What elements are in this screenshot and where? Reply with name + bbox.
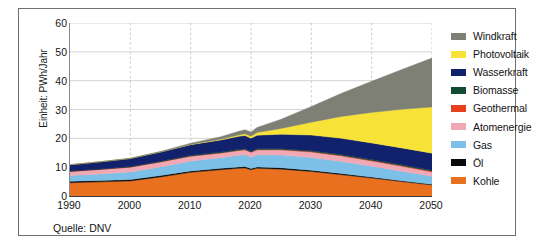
- legend-swatch-icon: [451, 105, 466, 112]
- legend-swatch-icon: [451, 141, 466, 148]
- legend-label: Öl: [473, 157, 483, 169]
- x-tick-label: 2010: [167, 199, 213, 211]
- chart-figure: Einheit: PWh/Jahr 0102030405060 19902000…: [0, 0, 540, 247]
- legend-item[interactable]: Windkraft: [451, 27, 540, 45]
- chart-frame: Einheit: PWh/Jahr 0102030405060 19902000…: [18, 8, 516, 236]
- x-tick-label: 2030: [287, 199, 333, 211]
- legend-swatch-icon: [451, 33, 466, 40]
- legend-label: Biomasse: [473, 84, 518, 96]
- legend-label: Windkraft: [473, 30, 516, 42]
- y-tick-label: 60: [43, 17, 67, 29]
- x-tick-label: 2050: [408, 199, 454, 211]
- legend-item[interactable]: Öl: [451, 154, 540, 172]
- legend-item[interactable]: Biomasse: [451, 81, 540, 99]
- legend-swatch-icon: [451, 69, 466, 76]
- x-axis-tick-labels: 1990200020102020203020402050: [69, 199, 431, 215]
- legend-swatch-icon: [451, 159, 466, 166]
- x-tick-label: 1990: [46, 199, 92, 211]
- y-tick-label: 10: [43, 161, 67, 173]
- y-tick-label: 50: [43, 46, 67, 58]
- x-tick-label: 2040: [348, 199, 394, 211]
- legend-swatch-icon: [451, 123, 466, 130]
- legend-label: Atomenergie: [473, 121, 531, 133]
- y-tick-label: 40: [43, 75, 67, 87]
- legend-label: Gas: [473, 139, 492, 151]
- x-tick-label: 2000: [106, 199, 152, 211]
- legend-label: Geothermal: [473, 102, 527, 114]
- legend-swatch-icon: [451, 51, 466, 58]
- stacked-area-plot: [69, 23, 432, 197]
- legend-label: Photovoltaik: [473, 48, 529, 60]
- legend-label: Kohle: [473, 175, 499, 187]
- chart-legend: WindkraftPhotovoltaikWasserkraftBiomasse…: [451, 27, 540, 190]
- y-tick-label: 30: [43, 104, 67, 116]
- legend-item[interactable]: Photovoltaik: [451, 45, 540, 63]
- y-tick-label: 20: [43, 132, 67, 144]
- legend-item[interactable]: Geothermal: [451, 99, 540, 117]
- legend-label: Wasserkraft: [473, 66, 528, 78]
- legend-item[interactable]: Wasserkraft: [451, 63, 540, 81]
- y-axis-tick-labels: 0102030405060: [41, 23, 67, 196]
- legend-item[interactable]: Kohle: [451, 172, 540, 190]
- legend-swatch-icon: [451, 177, 466, 184]
- x-tick-label: 2020: [227, 199, 273, 211]
- plot-area: [69, 23, 431, 196]
- legend-item[interactable]: Atomenergie: [451, 117, 540, 135]
- area-series-svg: [70, 23, 432, 196]
- legend-item[interactable]: Gas: [451, 136, 540, 154]
- legend-swatch-icon: [451, 87, 466, 94]
- source-note: Quelle: DNV: [53, 222, 111, 234]
